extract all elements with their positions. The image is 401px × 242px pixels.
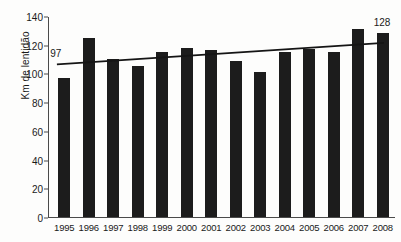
x-tick-label: 2006 [324, 222, 344, 233]
x-tick-label: 2002 [226, 222, 246, 233]
y-tick-label: 40 [32, 155, 43, 166]
x-tick-label: 2005 [299, 222, 319, 233]
y-axis-line [48, 17, 49, 218]
trendline [52, 17, 395, 218]
y-tick-label: 100 [26, 69, 43, 80]
y-tick-label: 120 [26, 40, 43, 51]
x-tick-label: 2007 [348, 222, 368, 233]
x-tick-label: 1995 [54, 222, 74, 233]
y-tick-label: 20 [32, 184, 43, 195]
y-tick-label: 60 [32, 126, 43, 137]
y-tick-label: 140 [26, 12, 43, 23]
x-tick-label: 2000 [177, 222, 197, 233]
x-tick-label: 2008 [373, 222, 393, 233]
plot-area: 97128 [52, 17, 395, 218]
chart-figure: Km de lentidão 020406080100120140 97128 … [0, 0, 401, 242]
x-tick-label: 1998 [128, 222, 148, 233]
value-label: 97 [50, 48, 61, 59]
x-tick-label: 1996 [79, 222, 99, 233]
y-axis-ticks: 020406080100120140 [22, 0, 48, 242]
value-label: 128 [374, 17, 391, 28]
x-tick-label: 1997 [103, 222, 123, 233]
x-tick-label: 2001 [201, 222, 221, 233]
y-tick-label: 0 [37, 213, 43, 224]
x-axis-ticks: 1995199619971998199920002001200220032004… [52, 222, 395, 240]
y-tick-label: 80 [32, 98, 43, 109]
x-tick-label: 2004 [275, 222, 295, 233]
x-tick-label: 1999 [152, 222, 172, 233]
x-tick-label: 2003 [250, 222, 270, 233]
